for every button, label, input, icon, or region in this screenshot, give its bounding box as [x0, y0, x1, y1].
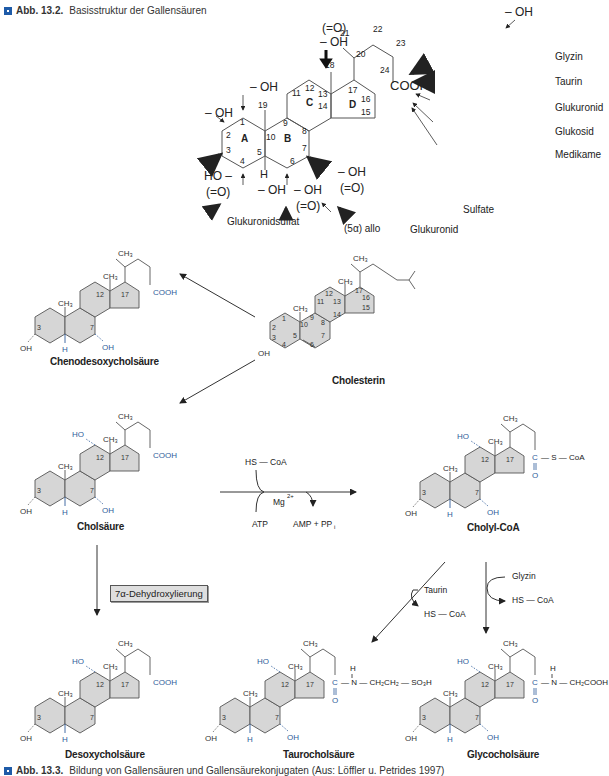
svg-text:13: 13 [318, 89, 328, 99]
svg-text:O: O [332, 696, 338, 705]
structure-cholsaeure: COOH [20, 412, 177, 517]
svg-text:(=O): (=O) [322, 21, 346, 35]
svg-text:HS — CoA: HS — CoA [424, 609, 466, 619]
svg-text:2: 2 [226, 130, 231, 140]
svg-text:COOH: COOH [153, 451, 177, 460]
svg-text:22: 22 [373, 24, 383, 34]
svg-text:ATP: ATP [252, 519, 268, 529]
svg-text:19: 19 [258, 100, 268, 110]
svg-text:13: 13 [333, 298, 341, 305]
svg-text:i: i [334, 524, 335, 530]
svg-text:– OH: – OH [294, 183, 322, 197]
svg-text:O: O [532, 471, 538, 480]
svg-text:A: A [241, 133, 248, 144]
svg-text:7: 7 [302, 143, 307, 153]
svg-text:23: 23 [396, 38, 406, 48]
svg-text:6: 6 [290, 156, 295, 166]
svg-text:15: 15 [361, 107, 371, 117]
svg-text:9: 9 [310, 314, 314, 321]
compound-taurocholsaeure: Taurocholsäure [283, 749, 355, 760]
svg-text:CH₃: CH₃ [293, 304, 308, 313]
svg-text:C: C [532, 678, 538, 687]
svg-text:Glukuronidsulfat: Glukuronidsulfat [227, 216, 299, 227]
svg-text:12: 12 [305, 83, 315, 93]
svg-text:2+: 2+ [287, 493, 294, 499]
svg-text:20: 20 [356, 49, 366, 59]
svg-text:HO –: HO – [204, 169, 232, 183]
svg-text:Sulfate: Sulfate [463, 204, 495, 215]
svg-text:10: 10 [266, 132, 276, 142]
conjugate-medikame: Medikame [555, 149, 602, 160]
svg-text:Glyzin: Glyzin [512, 571, 536, 581]
svg-text:6: 6 [310, 341, 314, 348]
bile-acid-basic-structure: 12345 678910 11121314 1516171819 2021222… [0, 0, 609, 240]
caption-text: Bildung von Gallensäuren und Gallensäure… [69, 765, 444, 776]
svg-text:8: 8 [302, 126, 307, 136]
compound-chenodesoxycholsaeure: Chenodesoxycholsäure [50, 356, 159, 367]
svg-text:17: 17 [348, 85, 358, 95]
svg-text:– OH: – OH [505, 5, 533, 19]
svg-text:– OH: – OH [338, 165, 366, 179]
svg-text:16: 16 [362, 294, 370, 301]
svg-text:(=O): (=O) [296, 199, 320, 213]
structure-chenodesoxycholsaeure: COOH [20, 249, 177, 354]
svg-text:3: 3 [226, 145, 231, 155]
bile-acid-synthesis-scheme: 371217 CH₃CH₃CH₃ OH H OH HO COOH Chenode… [0, 240, 609, 760]
structure-cholesterin: 12345 678910 11121314 151617 CH₃CH₃CH₃OH [258, 254, 415, 358]
svg-text:Taurin: Taurin [424, 585, 447, 595]
svg-text:11: 11 [292, 88, 301, 98]
svg-text:16: 16 [361, 94, 371, 104]
svg-text:CH₃: CH₃ [338, 277, 353, 286]
svg-text:7: 7 [321, 332, 325, 339]
svg-text:– OH: – OH [320, 35, 348, 49]
compound-cholesterin: Cholesterin [332, 375, 385, 386]
svg-text:H: H [550, 664, 556, 673]
caption-label: Abb. 13.3. [16, 765, 63, 776]
svg-text:Mg: Mg [273, 497, 285, 507]
svg-text:17: 17 [355, 287, 363, 294]
svg-text:8: 8 [321, 319, 325, 326]
svg-text:15: 15 [362, 304, 370, 311]
svg-text:O: O [532, 696, 538, 705]
svg-text:1: 1 [282, 315, 286, 322]
dehydroxylation-label: 7α-Dehydroxylierung [110, 585, 208, 602]
svg-text:5: 5 [257, 147, 262, 157]
svg-text:COOH: COOH [153, 678, 177, 687]
svg-text:C: C [532, 453, 538, 462]
svg-text:10: 10 [300, 321, 308, 328]
svg-text:D: D [349, 99, 356, 110]
structure-cholyl-coa: C O — S — CoA [405, 414, 585, 519]
compound-cholyl-coa: Cholyl-CoA [467, 522, 519, 533]
svg-text:COOH: COOH [153, 288, 177, 297]
svg-text:14: 14 [333, 311, 341, 318]
svg-text:CH₃: CH₃ [353, 254, 368, 263]
svg-text:11: 11 [317, 298, 324, 305]
svg-text:1: 1 [240, 117, 245, 127]
conjugate-glukuronid: Glukuronid [555, 102, 603, 113]
svg-text:HS — CoA: HS — CoA [512, 595, 554, 605]
svg-text:Glukuronid: Glukuronid [410, 224, 458, 235]
svg-text:3: 3 [272, 334, 276, 341]
svg-text:9: 9 [283, 118, 288, 128]
conjugate-glukosid: Glukosid [555, 126, 594, 137]
svg-text:– OH: – OH [258, 183, 286, 197]
structure-desoxycholsaeure: COOH [20, 639, 177, 744]
compound-glycocholsaeure: Glycocholsäure [467, 749, 540, 760]
caption-square-icon [4, 767, 12, 775]
svg-text:4: 4 [282, 341, 286, 348]
svg-text:— N — CH₂COOH: — N — CH₂COOH [541, 678, 608, 687]
svg-text:(=O): (=O) [340, 181, 364, 195]
svg-text:12: 12 [325, 290, 333, 297]
svg-text:H: H [350, 664, 356, 673]
svg-text:— N — CH₂CH₂ — SO₃H: — N — CH₂CH₂ — SO₃H [341, 678, 432, 687]
svg-text:B: B [284, 133, 291, 144]
svg-text:2: 2 [272, 324, 276, 331]
svg-text:4: 4 [240, 156, 245, 166]
structure-taurocholsaeure: C O H — N — CH₂CH₂ — SO₃H [205, 639, 432, 744]
svg-text:H: H [260, 168, 268, 180]
svg-text:C: C [306, 97, 313, 108]
svg-text:(=O): (=O) [206, 185, 230, 199]
compound-cholsaeure: Cholsäure [77, 521, 125, 532]
svg-text:5: 5 [293, 332, 297, 339]
svg-text:(5α) allo: (5α) allo [344, 223, 381, 234]
